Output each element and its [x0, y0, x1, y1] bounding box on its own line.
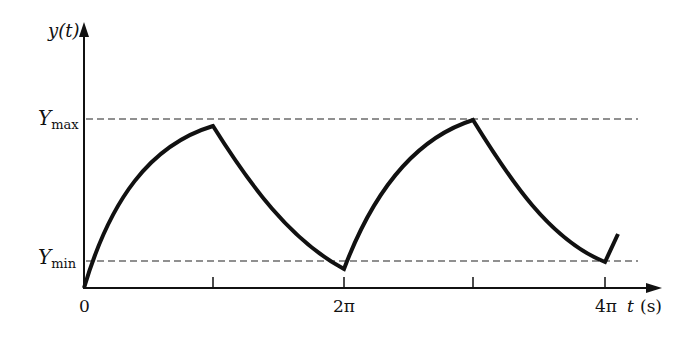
tick-label-4pi: 4π [595, 296, 617, 316]
x-axis-ticks [213, 277, 605, 288]
waveform-curve [84, 120, 618, 288]
y-min-label: Ymin [38, 245, 77, 271]
x-axis-variable: t [627, 296, 634, 316]
y-axis-label: y(t) [47, 20, 79, 41]
tick-label-0: 0 [79, 296, 90, 316]
tick-label-2pi: 2π [333, 296, 355, 316]
waveform-chart: y(t) Ymax Ymin 0 2π 4π t (s) [0, 0, 688, 340]
x-axis-unit: (s) [640, 296, 662, 316]
y-max-label: Ymax [38, 106, 79, 132]
y-axis-arrow-icon [79, 22, 89, 37]
x-axis-arrow-icon [646, 283, 662, 293]
